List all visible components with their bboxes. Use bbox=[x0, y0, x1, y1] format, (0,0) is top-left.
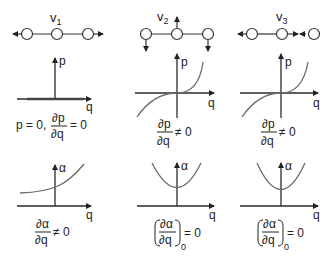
atom-right bbox=[309, 29, 320, 40]
alpha-plot-v3: α q bbox=[240, 159, 320, 222]
atom-left bbox=[247, 29, 258, 40]
alpha-condition-v3: ∂α ∂q 0 = 0 bbox=[258, 217, 304, 252]
svg-text:∂q: ∂q bbox=[262, 233, 275, 247]
atom-center bbox=[52, 29, 63, 40]
svg-text:= 0: = 0 bbox=[287, 226, 304, 240]
svg-text:∂α: ∂α bbox=[160, 217, 173, 231]
alpha-condition-v1: ∂α ∂q ≠ 0 bbox=[35, 217, 70, 247]
svg-text:0: 0 bbox=[181, 242, 186, 252]
p-plot-v3: p q bbox=[240, 54, 320, 118]
svg-text:∂q: ∂q bbox=[261, 134, 274, 148]
alpha-plot-v2: α q bbox=[137, 159, 216, 222]
svg-text:∂p: ∂p bbox=[52, 111, 65, 125]
p-plot-v1: p q bbox=[17, 54, 93, 114]
svg-text:∂q: ∂q bbox=[35, 233, 48, 247]
svg-text:= 0: = 0 bbox=[184, 226, 201, 240]
svg-text:= 0: = 0 bbox=[70, 118, 87, 132]
alpha-condition-v2: ∂α ∂q 0 = 0 bbox=[155, 217, 201, 252]
vibrational-modes-diagram: v1 p q p = 0, ∂p ∂q = 0 bbox=[0, 0, 332, 260]
molecule-v1 bbox=[13, 29, 103, 40]
q-axis-label: q bbox=[86, 100, 93, 114]
alpha-axis-label: α bbox=[59, 161, 66, 175]
svg-text:∂q: ∂q bbox=[51, 127, 64, 141]
mode-label-v2: v2 bbox=[157, 9, 169, 26]
column-v2: v2 p q ∂p ∂q ≠ 0 α q bbox=[135, 9, 216, 252]
column-v1: v1 p q p = 0, ∂p ∂q = 0 bbox=[13, 10, 103, 247]
svg-text:∂p: ∂p bbox=[158, 117, 171, 131]
alpha-plot-v1: α q bbox=[17, 161, 93, 222]
svg-text:∂q: ∂q bbox=[159, 233, 172, 247]
molecule-v2 bbox=[141, 17, 214, 51]
q-axis-label: q bbox=[313, 208, 320, 222]
svg-text:0: 0 bbox=[284, 242, 289, 252]
q-axis-label: q bbox=[208, 96, 215, 110]
atom-center bbox=[172, 29, 183, 40]
atom-right bbox=[83, 29, 94, 40]
atom-center bbox=[277, 29, 288, 40]
atom-right bbox=[203, 29, 214, 40]
alpha-axis-label: α bbox=[285, 159, 292, 173]
p-condition-v3: ∂p ∂q ≠ 0 bbox=[261, 117, 296, 148]
atom-left bbox=[22, 29, 33, 40]
alpha-axis-label: α bbox=[181, 159, 188, 173]
mode-label-v3: v3 bbox=[276, 9, 288, 26]
p-plot-v2: p q bbox=[135, 54, 215, 118]
svg-text:≠ 0: ≠ 0 bbox=[53, 225, 70, 239]
q-axis-label: q bbox=[313, 96, 320, 110]
svg-text:∂q: ∂q bbox=[157, 134, 170, 148]
q-axis-label: q bbox=[86, 208, 93, 222]
p-condition-v2: ∂p ∂q ≠ 0 bbox=[157, 117, 192, 148]
svg-text:∂α: ∂α bbox=[263, 217, 276, 231]
column-v3: v3 p q ∂p ∂q ≠ 0 α q bbox=[238, 9, 320, 252]
svg-text:≠ 0: ≠ 0 bbox=[279, 125, 296, 139]
svg-text:∂α: ∂α bbox=[36, 217, 49, 231]
atom-left bbox=[141, 29, 152, 40]
p-axis-label: p bbox=[285, 55, 292, 69]
mode-label-v1: v1 bbox=[50, 10, 62, 27]
alpha-curve bbox=[20, 164, 84, 193]
svg-text:≠ 0: ≠ 0 bbox=[175, 125, 192, 139]
p-condition-v1: p = 0, ∂p ∂q = 0 bbox=[16, 111, 87, 141]
p-axis-label: p bbox=[181, 55, 188, 69]
p-axis-label: p bbox=[59, 54, 66, 68]
svg-text:∂p: ∂p bbox=[262, 117, 275, 131]
molecule-v3 bbox=[238, 29, 320, 40]
svg-text:p = 0,: p = 0, bbox=[16, 118, 46, 132]
p-curve bbox=[242, 62, 308, 117]
p-curve bbox=[137, 62, 203, 117]
q-axis-label: q bbox=[209, 208, 216, 222]
